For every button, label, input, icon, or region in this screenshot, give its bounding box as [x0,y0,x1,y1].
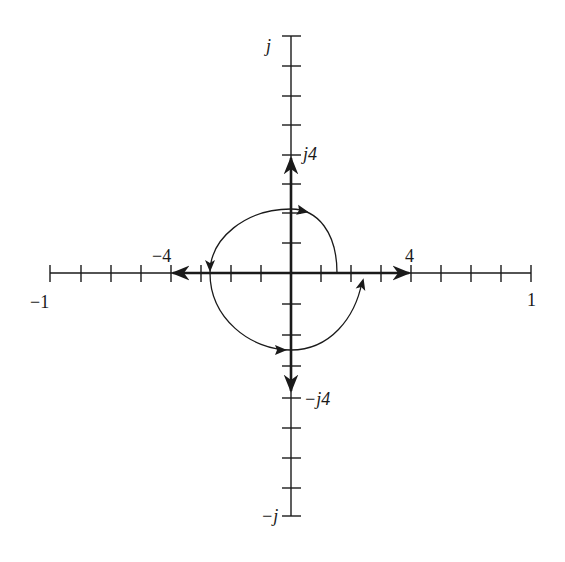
imag-neg4-label: −j4 [304,389,330,409]
imag-axis-min-label: −j [261,506,278,526]
spiral-arrow-top-icon [296,205,310,217]
real-axis-min-label: −1 [30,292,49,312]
real-axis-max-label: 1 [527,290,536,310]
spiral-curve [205,205,368,355]
spiral-arrow-end-icon [356,277,369,291]
real-pos4-label: 4 [405,246,414,266]
real-neg4-label: −4 [152,246,171,266]
spiral-arrow-left-icon [205,260,215,272]
complex-plane-diagram: −1 1 −4 4 j −j j4 −j4 [0,0,565,562]
spiral-arrow-bottom-icon [275,345,287,355]
imag-axis-max-label: j [264,36,271,56]
unit-vectors [173,158,409,391]
imag-pos4-label: j4 [301,144,317,164]
